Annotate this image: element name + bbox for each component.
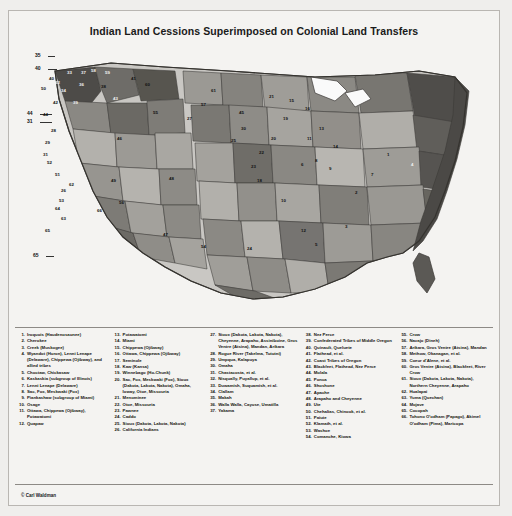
list-item: 55.Crow: [398, 332, 490, 338]
map-region-37: 37: [81, 71, 86, 75]
legend-number: 11.: [16, 408, 27, 420]
map-region-30: 30: [241, 127, 246, 131]
legend-label: Ottawa, Chippewa (Ojibway): [123, 351, 204, 357]
legend-number: 43.: [303, 364, 314, 370]
legend-label: Omaha: [218, 363, 299, 369]
map-region-23: 23: [251, 165, 256, 169]
list-item: 16.Ottawa, Chippewa (Ojibway): [112, 351, 204, 357]
legend-number: 26.: [112, 427, 123, 433]
legend-label: Clallam: [218, 389, 299, 395]
legend-label: Nez Perce: [314, 332, 395, 338]
legend-label: Washoe: [314, 428, 395, 434]
legend-column-4: 38.Nez Perce 39.Confederated Tribes of M…: [302, 332, 398, 484]
list-item: 8.Sac, Fox, Meskwaki (Fox): [16, 389, 108, 395]
map-region-9: 9: [329, 167, 331, 171]
us-map-svg: [15, 41, 493, 323]
map-region-45: 45: [239, 111, 244, 115]
list-item: 31.Chastacosta, et al.: [207, 370, 299, 376]
copyright-credit: © Carl Waldman: [21, 493, 56, 498]
map-region-38: 38: [101, 85, 106, 89]
legend-number: 14.: [112, 338, 123, 344]
legend-label: Shoshone: [314, 383, 395, 389]
legend-number: 32.: [207, 376, 218, 382]
legend-label: Methow, Okanagan, et al.: [409, 351, 490, 357]
list-item: 25.Sioux (Dakota, Lakota, Nakota): [112, 421, 204, 427]
legend-number: 37.: [207, 408, 218, 414]
legend-label: Sioux (Dakota, Lakota, Nakota), Northern…: [409, 376, 490, 388]
legend-label: Cherokee: [27, 338, 108, 344]
map-region-56: 56: [119, 201, 124, 205]
legend-label: Miami: [123, 338, 204, 344]
list-item: 2.Cherokee: [16, 338, 108, 344]
map-canvas: 35 40 44 31 65 1 2 3 4 5 6 7 8 9 10 11 1…: [15, 41, 493, 323]
map-region-66: 66: [97, 209, 102, 213]
legend-number: 22.: [112, 402, 123, 408]
map-region-16: 16: [305, 107, 310, 111]
legend-label: Osage: [27, 402, 108, 408]
legend-label: Umpqua, Kalapuya: [218, 357, 299, 363]
map-region-40: 40: [49, 77, 54, 81]
legend-label: Winnebago (Ho-Chunk): [123, 370, 204, 376]
map-region-32: 32: [55, 81, 60, 85]
map-region-53: 53: [59, 199, 64, 203]
legend-number: 59.: [398, 358, 409, 364]
map-region-26: 26: [61, 189, 66, 193]
legend-label: Chehalias, Chinook, et al.: [314, 409, 395, 415]
legend-number: 49.: [303, 402, 314, 408]
list-item: 53.Washoe: [303, 428, 395, 434]
legend-number: 3.: [16, 345, 27, 351]
legend-label: Piankashaw (subgroup of Miami): [27, 395, 108, 401]
map-region-60: 60: [145, 83, 150, 87]
list-item: 43.Blackfeet, Flathead, Nez Perce: [303, 364, 395, 370]
legend-label: Mojave: [409, 402, 490, 408]
legend-number: 30.: [207, 363, 218, 369]
map-region-49: 49: [111, 179, 116, 183]
legend-label: Apache: [314, 390, 395, 396]
map-region-63: 63: [61, 217, 66, 221]
map-figure: Indian Land Cessions Superimposed on Col…: [8, 10, 500, 506]
legend-label: Ute: [314, 402, 395, 408]
map-region-28: 28: [51, 129, 56, 133]
legend-label: Crow: [409, 332, 490, 338]
legend-number: 55.: [398, 332, 409, 338]
edge-label-31: 31: [27, 119, 33, 124]
map-region-19: 19: [283, 117, 288, 121]
legend-number: 63.: [398, 395, 409, 401]
legend-number: 5.: [16, 370, 27, 376]
edge-label-65: 65: [33, 253, 39, 258]
legend-label: Makah: [218, 395, 299, 401]
list-item: 66.Tohono O'odham (Papago), Akimel O'odh…: [398, 414, 490, 426]
list-item: 63.Yuma (Quechan): [398, 395, 490, 401]
list-item: 23.Pawnee: [112, 408, 204, 414]
legend-number: 46.: [303, 383, 314, 389]
legend-label: Lenni Lenape (Delaware): [27, 383, 108, 389]
map-region-55: 55: [153, 111, 158, 115]
list-item: 3.Creek (Muskogee): [16, 345, 108, 351]
legend-number: 57.: [398, 345, 409, 351]
map-region-35: 35: [49, 65, 54, 69]
map-region-15: 15: [289, 99, 294, 103]
legend-number: 24.: [112, 414, 123, 420]
legend-number: 36.: [207, 402, 218, 408]
legend-number: 21.: [112, 395, 123, 401]
map-region-47: 47: [163, 233, 168, 237]
legend-number: 29.: [207, 357, 218, 363]
list-item: 49.Ute: [303, 402, 395, 408]
map-region-58: 58: [91, 69, 96, 73]
legend-label: Confederated Tribes of Middle Oregon: [314, 338, 395, 344]
map-region-18: 18: [257, 179, 262, 183]
map-region-31: 31: [43, 153, 48, 157]
map-region-57: 57: [201, 103, 206, 107]
legend-number: 16.: [112, 351, 123, 357]
list-item: 44.Molala: [303, 370, 395, 376]
legend-label: Chastacosta, et al.: [218, 370, 299, 376]
legend-number: 62.: [398, 389, 409, 395]
map-region-54: 54: [201, 245, 206, 249]
list-item: 62.Hualapai: [398, 389, 490, 395]
map-region-27: 27: [187, 117, 192, 121]
list-item: 27.Sioux (Dakota, Lakota, Nakota), Cheye…: [207, 332, 299, 350]
legend-number: 13.: [112, 332, 123, 338]
list-item: 12.Quapaw: [16, 421, 108, 427]
legend-label: Wyandot (Huron), Lenni Lenape (Delaware)…: [27, 351, 108, 369]
list-item: 34.Clallam: [207, 389, 299, 395]
